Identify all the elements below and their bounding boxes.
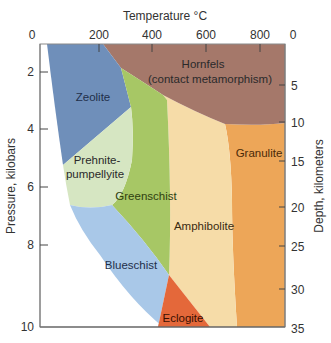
top-tick-label: 400 (142, 28, 162, 42)
top-tick-label: 200 (89, 28, 109, 42)
right-tick-label: 35 (291, 322, 305, 336)
greenschist-label: Greenschist (115, 190, 177, 202)
left-axis-title: Pressure, kilobars (4, 138, 18, 234)
blueschist-label: Blueschist (105, 259, 158, 271)
left-tick-label: 6 (27, 180, 34, 194)
prehnite-label: Prehnite- (74, 154, 121, 166)
left-tick-label: 10 (21, 320, 35, 334)
right-corner-label: 0 (290, 28, 297, 42)
top-axis-title: Temperature °C (123, 9, 207, 23)
hornfels-label: Hornfels (182, 58, 225, 70)
top-tick-label: 0 (29, 28, 36, 42)
top-tick-label: 600 (196, 28, 216, 42)
right-axis-title: Depth, kilometers (312, 139, 326, 232)
hornfels-sublabel: (contact metamorphism) (148, 73, 272, 85)
left-tick-label: 2 (27, 65, 34, 79)
right-tick-label: 10 (291, 116, 305, 130)
amphibolite-label: Amphibolite (174, 220, 234, 232)
zeolite-label: Zeolite (76, 91, 111, 103)
right-tick-label: 15 (291, 155, 305, 169)
right-tick-label: 30 (291, 283, 305, 297)
eclogite-label: Eclogite (163, 312, 204, 324)
granulite-label: Granulite (236, 147, 283, 159)
top-tick-label: 800 (250, 28, 270, 42)
left-tick-label: 4 (27, 122, 34, 136)
pumpellyite-label: pumpellyite (66, 168, 124, 180)
left-tick-label: 8 (27, 238, 34, 252)
metamorphic-facies-diagram: Temperature °C Pressure, kilobars Depth,… (0, 0, 331, 343)
right-tick-label: 20 (291, 201, 305, 215)
right-tick-label: 5 (291, 79, 298, 93)
right-tick-label: 25 (291, 240, 305, 254)
left-axis-ticks (40, 72, 48, 245)
